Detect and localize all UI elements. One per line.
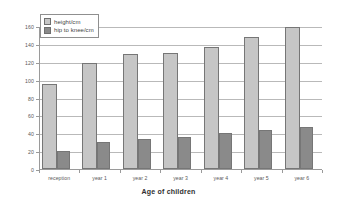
bar-hip-to-knee[interactable] (138, 139, 151, 169)
bar-group (161, 27, 201, 169)
y-axis-tick-label: 160 (8, 24, 34, 30)
x-axis-tick-mark (282, 170, 283, 173)
y-axis-tick-label: 80 (8, 96, 34, 102)
legend-item-height[interactable]: height/cm (44, 18, 94, 26)
bar-hip-to-knee[interactable] (178, 137, 191, 169)
bar-chart: 020406080100120140160 receptionyear 1yea… (0, 0, 337, 213)
bar-height[interactable] (204, 47, 219, 169)
bar-hip-to-knee[interactable] (219, 133, 232, 169)
x-axis-tick-label: year 5 (254, 175, 269, 181)
x-axis-tick-mark (79, 170, 80, 173)
y-axis-tick-label: 40 (8, 131, 34, 137)
bar-height[interactable] (42, 84, 57, 169)
x-axis-tick-mark (120, 170, 121, 173)
y-axis-tick-label: 120 (8, 60, 34, 66)
y-axis-tick-label: 20 (8, 149, 34, 155)
bar-group (283, 27, 323, 169)
bar-group (121, 27, 161, 169)
y-axis-tick-label: 0 (8, 167, 34, 173)
bar-hip-to-knee[interactable] (97, 142, 110, 169)
x-axis-tick-label: year 1 (92, 175, 107, 181)
bar-height[interactable] (123, 54, 138, 169)
x-axis-tick-label: year 3 (173, 175, 188, 181)
x-axis-tick-mark (201, 170, 202, 173)
x-axis-tick-mark (322, 170, 323, 173)
bar-height[interactable] (244, 37, 259, 169)
legend-swatch-hip-to-knee-icon (44, 27, 51, 34)
bar-group (40, 27, 80, 169)
bar-height[interactable] (163, 53, 178, 169)
bar-hip-to-knee[interactable] (57, 151, 70, 169)
legend-swatch-height-icon (44, 18, 51, 25)
x-axis-tick-mark (160, 170, 161, 173)
x-axis-tick-label: year 2 (133, 175, 148, 181)
bar-hip-to-knee[interactable] (300, 127, 313, 169)
legend-item-hip-to-knee[interactable]: hip to knee/cm (44, 26, 94, 34)
bar-group (242, 27, 282, 169)
bar-hip-to-knee[interactable] (259, 130, 272, 169)
x-axis-tick-mark (39, 170, 40, 173)
x-axis-tick-label: reception (48, 175, 70, 181)
y-axis-tick-label: 60 (8, 113, 34, 119)
y-axis-tick-label: 100 (8, 78, 34, 84)
x-axis-title: Age of children (0, 188, 337, 195)
chart-legend: height/cm hip to knee/cm (40, 14, 99, 38)
x-axis-tick-mark (241, 170, 242, 173)
x-axis-tick-label: year 4 (214, 175, 229, 181)
bar-height[interactable] (82, 63, 97, 169)
plot-area (39, 27, 322, 170)
legend-label-hip-to-knee: hip to knee/cm (54, 27, 94, 33)
bar-height[interactable] (285, 27, 300, 169)
legend-label-height: height/cm (54, 19, 80, 25)
x-axis-tick-label: year 6 (294, 175, 309, 181)
y-axis-tick-label: 140 (8, 42, 34, 48)
bar-group (202, 27, 242, 169)
bar-group (80, 27, 120, 169)
